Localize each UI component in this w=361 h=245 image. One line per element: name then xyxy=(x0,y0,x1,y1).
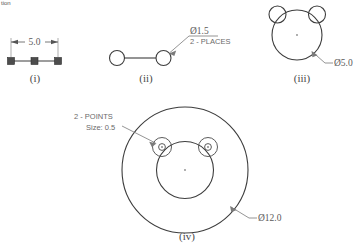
circle-right xyxy=(156,51,171,66)
points-note-line-1: 2 - POINTS xyxy=(74,112,113,121)
dimension-arrow-right-icon xyxy=(51,40,58,45)
point-marker-2 xyxy=(31,58,38,65)
point-marker-3 xyxy=(55,58,62,65)
dimension-value-5: 5.0 xyxy=(29,37,41,47)
corner-note-text: tion xyxy=(1,0,11,6)
figure-iv-group: 2 - POINTS Size: 0.5 Ø12.0 (iv) xyxy=(74,107,282,243)
diameter-label-5-0: Ø5.0 xyxy=(334,58,353,68)
diameter-label-1-5: Ø1.5 xyxy=(190,26,209,36)
figure-ii-caption: (ii) xyxy=(139,72,153,85)
figure-ii-group: Ø1.5 2 - PLACES (ii) xyxy=(110,26,231,85)
point-dot-left xyxy=(161,146,163,148)
circle-left xyxy=(110,51,125,66)
diameter-label-12-0: Ø12.0 xyxy=(258,213,282,223)
points-note-line-2: Size: 0.5 xyxy=(86,123,115,132)
center-mark xyxy=(296,34,298,36)
dimension-arrow-left-icon xyxy=(11,40,18,45)
leader-arrow-icon xyxy=(312,51,318,57)
figure-i-group: 5.0 (i) xyxy=(8,37,62,85)
figure-iii-group: Ø5.0 (iii) xyxy=(269,6,353,85)
figure-i-caption: (i) xyxy=(30,72,41,85)
figure-iii-caption: (iii) xyxy=(294,72,311,85)
point-marker-1 xyxy=(8,58,15,65)
center-mark xyxy=(184,169,186,171)
figure-iv-caption: (iv) xyxy=(179,230,195,243)
note-leader-line xyxy=(122,126,156,143)
places-note: 2 - PLACES xyxy=(190,37,230,46)
point-dot-right xyxy=(207,146,209,148)
leader-line-diagonal xyxy=(170,36,189,53)
technical-drawing-canvas: tion 5.0 (i) Ø1.5 xyxy=(0,0,361,245)
